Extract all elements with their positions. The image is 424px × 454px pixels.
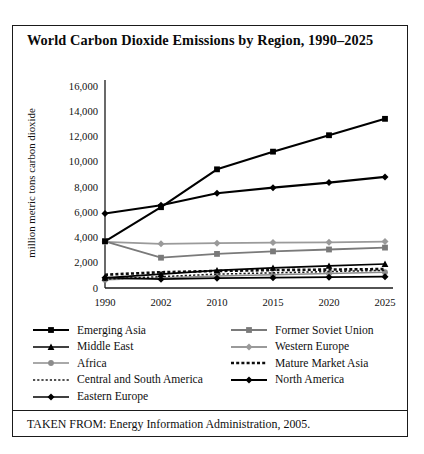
figure-frame: World Carbon Dioxide Emissions by Region… bbox=[12, 25, 408, 437]
legend-item: Central and South America bbox=[31, 372, 231, 389]
legend-item-label: Emerging Asia bbox=[77, 325, 146, 337]
legend-item-label: Eastern Europe bbox=[77, 391, 148, 403]
svg-text:2025: 2025 bbox=[374, 297, 395, 308]
svg-text:million metric tons carbon dio: million metric tons carbon dioxide bbox=[25, 108, 37, 258]
svg-text:2002: 2002 bbox=[150, 297, 171, 308]
line-swatch-gray-diamond-marker bbox=[229, 340, 269, 354]
svg-text:1990: 1990 bbox=[94, 297, 115, 308]
chart-title: World Carbon Dioxide Emissions by Region… bbox=[27, 32, 395, 49]
legend-item-label: Middle East bbox=[77, 341, 133, 353]
legend-item: Former Soviet Union bbox=[229, 322, 399, 339]
legend-item-label: Western Europe bbox=[275, 341, 349, 353]
source-note: TAKEN FROM: Energy Information Administr… bbox=[27, 417, 310, 432]
legend-item: Western Europe bbox=[229, 339, 399, 356]
legend-column-right: Former Soviet UnionWestern EuropeMature … bbox=[229, 322, 399, 388]
line-swatch-dotted-thick bbox=[229, 356, 269, 370]
line-swatch-dotted-thin bbox=[31, 373, 71, 387]
data-series-group bbox=[102, 116, 389, 283]
chart-legend: Emerging AsiaMiddle EastAfricaCentral an… bbox=[31, 322, 393, 406]
line-swatch-bold-diamond-marker bbox=[229, 373, 269, 387]
line-chart-svg: million metric tons carbon dioxide 02,00… bbox=[13, 52, 407, 320]
x-axis-tick-labels: 199020022010201520202025 bbox=[94, 297, 395, 308]
line-swatch-diamond-marker bbox=[31, 390, 71, 404]
svg-text:2020: 2020 bbox=[318, 297, 339, 308]
legend-item-label: Central and South America bbox=[77, 374, 203, 386]
legend-item-label: Mature Market Asia bbox=[275, 358, 368, 370]
y-axis-title: million metric tons carbon dioxide bbox=[25, 108, 37, 258]
axis-lines bbox=[105, 80, 393, 288]
line-swatch-square-marker bbox=[31, 323, 71, 337]
svg-text:2015: 2015 bbox=[262, 297, 283, 308]
svg-text:10,000: 10,000 bbox=[69, 156, 98, 167]
legend-item-label: North America bbox=[275, 374, 344, 386]
line-swatch-gray-square-marker bbox=[229, 323, 269, 337]
y-axis-tick-labels: 02,0004,0006,0008,00010,00012,00014,0001… bbox=[69, 81, 98, 294]
svg-text:0: 0 bbox=[93, 283, 98, 294]
series-western-europe bbox=[102, 238, 389, 247]
svg-text:6,000: 6,000 bbox=[74, 207, 98, 218]
legend-item: Emerging Asia bbox=[31, 322, 231, 339]
svg-text:2,000: 2,000 bbox=[74, 257, 98, 268]
legend-item: Eastern Europe bbox=[31, 388, 231, 405]
line-swatch-triangle-marker bbox=[31, 340, 71, 354]
legend-column-left: Emerging AsiaMiddle EastAfricaCentral an… bbox=[31, 322, 231, 405]
svg-text:2010: 2010 bbox=[206, 297, 227, 308]
svg-text:4,000: 4,000 bbox=[74, 232, 98, 243]
legend-item: Middle East bbox=[31, 339, 231, 356]
line-swatch-gray-circle-marker bbox=[31, 356, 71, 370]
legend-item-label: Former Soviet Union bbox=[275, 325, 374, 337]
legend-item: Africa bbox=[31, 355, 231, 372]
legend-item: Mature Market Asia bbox=[229, 355, 399, 372]
chart-plot-area: million metric tons carbon dioxide 02,00… bbox=[13, 52, 407, 320]
legend-item: North America bbox=[229, 372, 399, 389]
source-divider bbox=[13, 410, 407, 411]
series-north-america bbox=[102, 173, 389, 217]
svg-text:14,000: 14,000 bbox=[69, 106, 98, 117]
svg-text:16,000: 16,000 bbox=[69, 81, 98, 92]
svg-text:8,000: 8,000 bbox=[74, 182, 98, 193]
legend-item-label: Africa bbox=[77, 358, 107, 370]
svg-text:12,000: 12,000 bbox=[69, 131, 98, 142]
